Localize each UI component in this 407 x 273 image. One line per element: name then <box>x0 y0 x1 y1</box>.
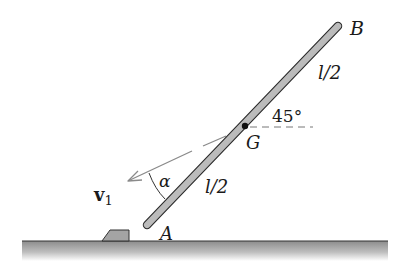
label-lower-half-length: l/2 <box>205 176 228 197</box>
ground <box>22 241 388 261</box>
center-of-mass-point <box>242 123 248 129</box>
label-upper-half-length: l/2 <box>318 62 341 83</box>
ground-ledge <box>102 230 129 241</box>
label-velocity-v1: v1 <box>93 184 113 208</box>
label-45-degrees: 45° <box>272 106 302 126</box>
label-a: A <box>158 223 173 244</box>
velocity-subscript: 1 <box>104 193 112 208</box>
label-g: G <box>246 132 260 153</box>
label-b: B <box>349 17 364 39</box>
label-alpha: α <box>159 171 171 191</box>
rod-diagram: B A G l/2 l/2 45° α v1 <box>0 0 407 273</box>
velocity-symbol: v <box>93 184 105 205</box>
